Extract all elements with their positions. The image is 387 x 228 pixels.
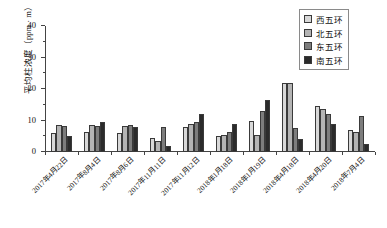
legend: 西五环北五环东五环南五环: [299, 9, 349, 70]
bar-南五环: [331, 124, 336, 152]
y-tick-label: 30: [28, 52, 37, 62]
x-axis-tick-label: 2017年4月22日: [28, 154, 69, 195]
y-tick-label: 20: [28, 83, 37, 93]
legend-swatch-icon: [304, 15, 312, 23]
bar-group: [243, 26, 276, 152]
legend-label: 东五环: [316, 40, 343, 52]
y-tick-label: 0: [32, 146, 36, 156]
bar-group: [45, 26, 78, 152]
bar-chart: 平均柱浓度（ppm · m） 010203040 2017年4月22日2017年…: [0, 0, 387, 228]
bar-group: [111, 26, 144, 152]
bar-南五环: [265, 100, 270, 152]
y-tick-label: 10: [28, 115, 37, 125]
legend-item[interactable]: 东五环: [304, 40, 343, 52]
bar-南五环: [232, 124, 237, 152]
bar-南五环: [298, 139, 303, 152]
legend-swatch-icon: [304, 56, 312, 64]
bar-南五环: [100, 122, 105, 152]
legend-swatch-icon: [304, 29, 312, 37]
legend-item[interactable]: 西五环: [304, 13, 343, 25]
x-axis-tick-label: 2017年8月4日: [64, 154, 102, 192]
bar-group: [177, 26, 210, 152]
x-axis-labels: 2017年4月22日2017年8月4日2017年8月6日2017年11月11日2…: [45, 154, 375, 228]
bar-南五环: [364, 144, 369, 152]
bar-group: [210, 26, 243, 152]
legend-label: 西五环: [316, 13, 343, 25]
y-tick-label: 40: [28, 20, 37, 30]
bar-南五环: [166, 146, 171, 152]
bar-南五环: [67, 136, 72, 152]
legend-label: 南五环: [316, 54, 343, 66]
bar-group: [78, 26, 111, 152]
legend-item[interactable]: 北五环: [304, 27, 343, 39]
bar-南五环: [199, 114, 204, 152]
bar-南五环: [133, 127, 138, 152]
legend-item[interactable]: 南五环: [304, 54, 343, 66]
x-tick: [375, 152, 376, 155]
legend-label: 北五环: [316, 27, 343, 39]
legend-swatch-icon: [304, 42, 312, 50]
bar-group: [144, 26, 177, 152]
x-axis-tick-label: 2018年7月4日: [328, 154, 366, 192]
